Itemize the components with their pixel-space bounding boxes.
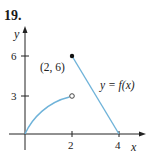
point-label: (2, 6) (40, 61, 65, 74)
x-tick-4: 4 (115, 139, 121, 151)
x-axis (9, 131, 146, 137)
x-tick-2: 2 (68, 139, 74, 151)
closed-endpoint-icon (70, 54, 74, 58)
curve-piece-1 (25, 97, 70, 134)
line-piece-2 (72, 56, 119, 134)
y-axis-arrow-icon (23, 26, 28, 33)
x-axis-label: x (130, 140, 137, 154)
function-label: y = f(x) (99, 79, 135, 92)
x-axis-arrow-icon (139, 132, 146, 137)
function-graph: y x 2 4 6 3 (2, 6) y = f(x) (0, 0, 151, 161)
y-axis-label: y (13, 27, 20, 41)
y-tick-3: 3 (11, 90, 17, 102)
y-axis (21, 26, 29, 150)
open-endpoint-icon (70, 94, 75, 99)
y-tick-6: 6 (11, 50, 17, 62)
